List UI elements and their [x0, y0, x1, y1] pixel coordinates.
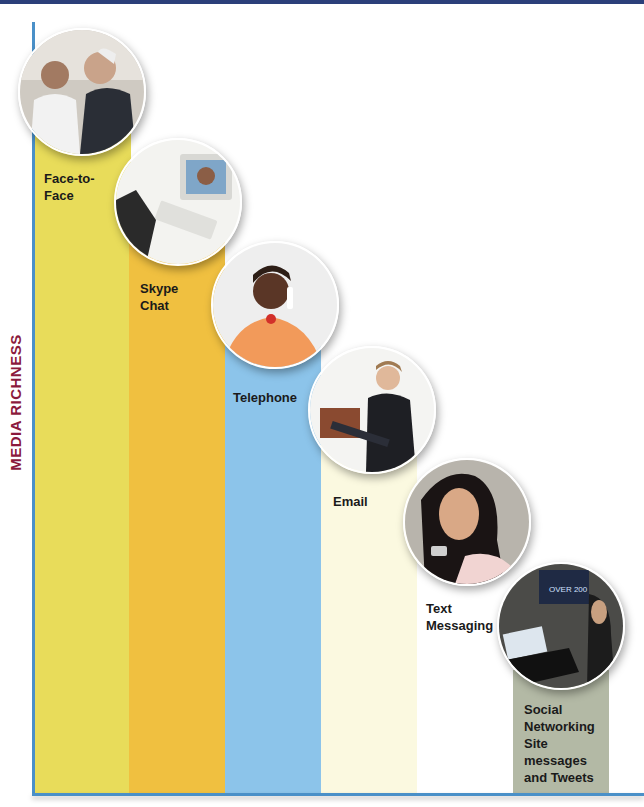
y-axis-label: MEDIA RICHNESS [4, 302, 26, 502]
woman-texting-photo [403, 458, 531, 586]
x-axis [32, 793, 644, 796]
column-telephone [225, 340, 321, 793]
label-skype-chat: Skype Chat [140, 280, 178, 314]
woman-on-phone-photo [211, 241, 339, 369]
woman-on-laptop-photo [308, 346, 436, 474]
label-telephone: Telephone [233, 389, 297, 406]
label-face-to-face: Face-to- Face [44, 170, 95, 204]
column-text-messaging [417, 560, 513, 793]
person-on-laptop-photo: OVER 200 [497, 562, 625, 690]
column-skype-chat [129, 230, 225, 793]
label-email: Email [333, 493, 368, 510]
svg-text:OVER 200: OVER 200 [549, 585, 588, 594]
video-call-computer-photo [114, 138, 242, 266]
label-text-messaging: Text Messaging [426, 600, 493, 634]
y-axis [32, 22, 35, 796]
doctor-and-patient-photo [18, 28, 146, 156]
top-bar [0, 0, 644, 4]
label-social-networking: Social Networking Site messages and Twee… [524, 701, 595, 786]
